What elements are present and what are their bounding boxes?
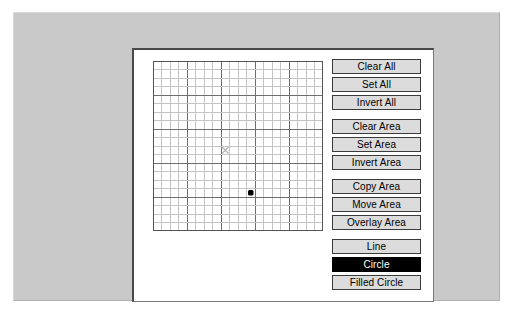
button-group-drawing-tools: LineCircleFilled Circle	[332, 239, 421, 290]
tool-button-column: Clear AllSet AllInvert AllClear AreaSet …	[332, 59, 421, 290]
copy-area-button[interactable]: Copy Area	[332, 179, 421, 194]
button-group-area-operations: Clear AreaSet AreaInvert Area	[332, 119, 421, 170]
move-area-button[interactable]: Move Area	[332, 197, 421, 212]
line-tool-button[interactable]: Line	[332, 239, 421, 254]
set-area-button[interactable]: Set Area	[332, 137, 421, 152]
invert-area-button[interactable]: Invert Area	[332, 155, 421, 170]
clear-all-button[interactable]: Clear All	[332, 59, 421, 74]
circle-tool-button[interactable]: Circle	[332, 257, 421, 272]
bitmap-editor-dialog: Clear AllSet AllInvert AllClear AreaSet …	[132, 48, 434, 302]
set-all-button[interactable]: Set All	[332, 77, 421, 92]
overlay-area-button[interactable]: Overlay Area	[332, 215, 421, 230]
desktop-panel: Clear AllSet AllInvert AllClear AreaSet …	[13, 12, 500, 301]
button-group-area-transfer: Copy AreaMove AreaOverlay Area	[332, 179, 421, 230]
filled-circle-tool-button[interactable]: Filled Circle	[332, 275, 421, 290]
button-group-all-operations: Clear AllSet AllInvert All	[332, 59, 421, 110]
pixel-grid-svg[interactable]	[153, 61, 323, 231]
invert-all-button[interactable]: Invert All	[332, 95, 421, 110]
grid-pixel-filled[interactable]	[248, 190, 254, 196]
clear-area-button[interactable]: Clear Area	[332, 119, 421, 134]
pixel-grid-canvas[interactable]	[153, 61, 323, 231]
